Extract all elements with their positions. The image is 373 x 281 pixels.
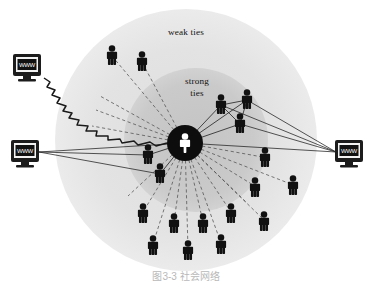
- social-network-diagram: WWW WWW WWW weak ties strong ties 图3-3 社…: [0, 0, 373, 281]
- monitor-screen-text: WWW: [19, 62, 36, 68]
- strong-ties-label-line1: strong: [185, 76, 209, 86]
- strong-ties-label-line2: ties: [190, 88, 204, 98]
- monitor-top-left: WWW: [13, 54, 41, 82]
- weak-ties-label: weak ties: [168, 27, 204, 37]
- hub-node: [167, 125, 203, 161]
- figure-caption: 图3-3 社会网络: [152, 270, 219, 281]
- monitor-right: WWW: [335, 140, 363, 168]
- diagram-canvas: WWW WWW WWW weak ties strong ties 图3-3 社…: [0, 0, 373, 281]
- monitor-screen-text: WWW: [341, 148, 358, 154]
- monitor-mid-left: WWW: [11, 140, 39, 168]
- monitor-screen-text: WWW: [17, 148, 34, 154]
